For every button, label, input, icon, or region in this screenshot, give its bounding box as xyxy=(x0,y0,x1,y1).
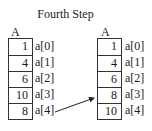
move-arrow-icon xyxy=(0,0,152,131)
